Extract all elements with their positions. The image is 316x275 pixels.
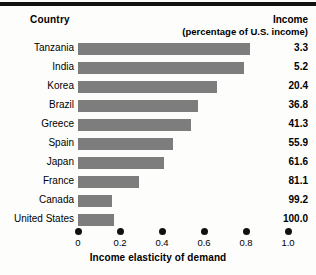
row-label-country: Spain — [0, 137, 74, 148]
row-value-income: 36.8 — [248, 99, 308, 110]
row-value-income: 41.3 — [248, 118, 308, 129]
bar — [78, 81, 217, 93]
table-row: Brazil36.8 — [0, 97, 316, 116]
tick-dot-icon — [159, 228, 166, 235]
table-row: France81.1 — [0, 173, 316, 192]
bar — [78, 214, 114, 226]
row-label-country: India — [0, 61, 74, 72]
chart-rows: Tanzania3.3India5.2Korea20.4Brazil36.8Gr… — [0, 40, 316, 230]
bar — [78, 100, 198, 112]
x-axis-tick: 0.4 — [145, 228, 179, 248]
table-row: Spain55.9 — [0, 135, 316, 154]
bar — [78, 119, 191, 131]
bar — [78, 43, 250, 55]
row-value-income: 55.9 — [248, 137, 308, 148]
x-axis-tick-label: 0.2 — [103, 237, 137, 248]
row-label-country: United States — [0, 213, 74, 224]
tick-dot-icon — [201, 228, 208, 235]
x-axis: Income elasticity of demand 00.20.40.60.… — [0, 228, 316, 275]
table-row: Canada99.2 — [0, 192, 316, 211]
tick-dot-icon — [75, 228, 82, 235]
table-row: Tanzania3.3 — [0, 40, 316, 59]
row-label-country: Japan — [0, 156, 74, 167]
bar — [78, 195, 112, 207]
x-axis-tick: 0.6 — [187, 228, 221, 248]
x-axis-tick-label: 0.8 — [229, 237, 263, 248]
row-value-income: 61.6 — [248, 156, 308, 167]
table-row: India5.2 — [0, 59, 316, 78]
column-header-country: Country — [30, 14, 70, 25]
x-axis-tick: 1.0 — [271, 228, 305, 248]
x-axis-tick: 0.2 — [103, 228, 137, 248]
row-value-income: 5.2 — [248, 61, 308, 72]
x-axis-tick-label: 0.6 — [187, 237, 221, 248]
table-row: Greece41.3 — [0, 116, 316, 135]
tick-dot-icon — [243, 228, 250, 235]
row-label-country: Korea — [0, 80, 74, 91]
row-value-income: 3.3 — [248, 42, 308, 53]
bar — [78, 62, 244, 74]
table-row: Japan61.6 — [0, 154, 316, 173]
row-label-country: Tanzania — [0, 42, 74, 53]
bar — [78, 176, 139, 188]
row-label-country: Brazil — [0, 99, 74, 110]
x-axis-tick-label: 0 — [61, 237, 95, 248]
row-label-country: Greece — [0, 118, 74, 129]
top-rule-divider — [0, 2, 316, 6]
row-value-income: 81.1 — [248, 175, 308, 186]
x-axis-title: Income elasticity of demand — [0, 252, 316, 263]
tick-dot-icon — [285, 228, 292, 235]
row-label-country: Canada — [0, 194, 74, 205]
x-axis-tick: 0 — [61, 228, 95, 248]
table-row: Korea20.4 — [0, 78, 316, 97]
bar — [78, 138, 173, 150]
column-header-income: Income — [273, 14, 308, 25]
tick-dot-icon — [117, 228, 124, 235]
chart-figure: Country Income (percentage of U.S. incom… — [0, 0, 316, 275]
x-axis-tick-label: 0.4 — [145, 237, 179, 248]
row-value-income: 100.0 — [248, 213, 308, 224]
x-axis-tick: 0.8 — [229, 228, 263, 248]
row-label-country: France — [0, 175, 74, 186]
row-value-income: 99.2 — [248, 194, 308, 205]
row-value-income: 20.4 — [248, 80, 308, 91]
bar — [78, 157, 164, 169]
column-header-income-subtitle: (percentage of U.S. income) — [182, 26, 308, 37]
x-axis-tick-label: 1.0 — [271, 237, 305, 248]
